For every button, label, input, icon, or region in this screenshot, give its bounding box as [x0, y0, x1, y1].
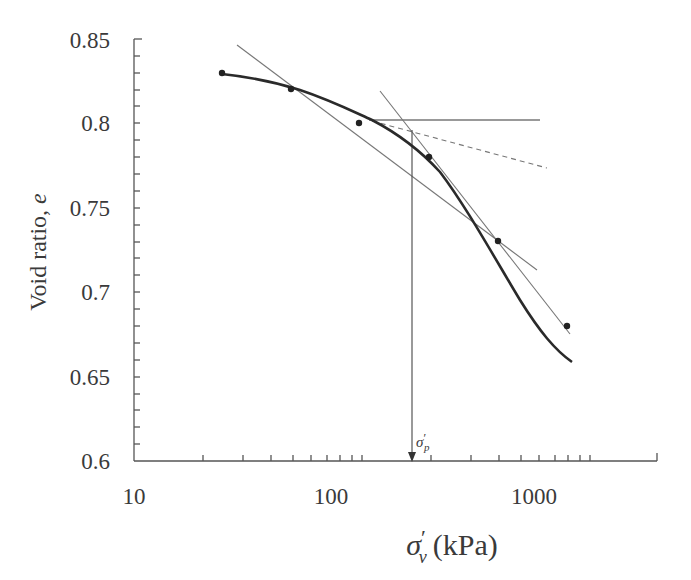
data-point [219, 70, 225, 76]
data-point [564, 323, 570, 329]
bisector-line [372, 121, 547, 168]
y-tick-label: 0.85 [70, 28, 110, 53]
virgin-compression-extension [380, 91, 570, 334]
data-point [356, 120, 362, 126]
x-axis [134, 453, 657, 461]
data-point [426, 154, 432, 160]
y-tick-labels: 0.85 0.8 0.75 0.7 0.65 0.6 [70, 28, 110, 474]
x-tick-labels: 10 100 1000 [123, 484, 558, 509]
x-tick-label: 10 [123, 484, 146, 509]
x-tick-label: 100 [314, 484, 349, 509]
compression-curve [222, 74, 572, 362]
y-tick-label: 0.8 [81, 111, 110, 136]
y-axis-title: Void ratio, e [25, 193, 51, 311]
y-axis [134, 39, 142, 461]
tangent-line [237, 45, 537, 270]
y-tick-label: 0.75 [70, 196, 110, 221]
y-tick-label: 0.65 [70, 365, 110, 390]
data-point [288, 86, 294, 92]
chart-canvas: 0.85 0.8 0.75 0.7 0.65 0.6 10 100 1000 V… [0, 0, 691, 580]
x-tick-label: 1000 [511, 484, 557, 509]
y-tick-label: 0.7 [81, 280, 110, 305]
data-point [495, 238, 501, 244]
y-tick-label: 0.6 [81, 449, 110, 474]
x-axis-title: σ′v(kPa) [406, 525, 498, 567]
construction-lines [237, 45, 570, 462]
preconsolidation-label: σ′p [416, 431, 430, 453]
